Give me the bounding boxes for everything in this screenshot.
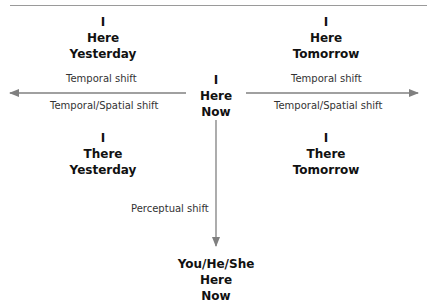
node-here-tomorrow: I Here Tomorrow	[270, 14, 382, 62]
label-down-perceptual: Perceptual shift	[131, 203, 209, 214]
node-line: Yesterday	[47, 162, 159, 178]
node-line: Here	[270, 30, 382, 46]
node-line: Here	[156, 272, 276, 288]
node-there-yesterday: I There Yesterday	[47, 130, 159, 178]
node-line: There	[47, 146, 159, 162]
label-left-spatial: Temporal/Spatial shift	[50, 100, 158, 111]
node-here-yesterday: I Here Yesterday	[47, 14, 159, 62]
node-line: Now	[186, 104, 246, 120]
node-line: Here	[186, 88, 246, 104]
node-line: There	[270, 146, 382, 162]
label-right-spatial: Temporal/Spatial shift	[274, 100, 382, 111]
node-there-tomorrow: I There Tomorrow	[270, 130, 382, 178]
node-line: I	[47, 14, 159, 30]
node-line: Here	[47, 30, 159, 46]
node-line: I	[186, 72, 246, 88]
node-line: Yesterday	[47, 46, 159, 62]
node-line: Tomorrow	[270, 162, 382, 178]
label-right-temporal: Temporal shift	[291, 73, 362, 84]
node-line: I	[47, 130, 159, 146]
node-here-now: I Here Now	[186, 72, 246, 120]
node-line: Tomorrow	[270, 46, 382, 62]
node-line: I	[270, 130, 382, 146]
label-left-temporal: Temporal shift	[66, 73, 137, 84]
node-you-here-now: You/He/She Here Now	[156, 256, 276, 304]
node-line: Now	[156, 288, 276, 304]
node-line: You/He/She	[156, 256, 276, 272]
node-line: I	[270, 14, 382, 30]
